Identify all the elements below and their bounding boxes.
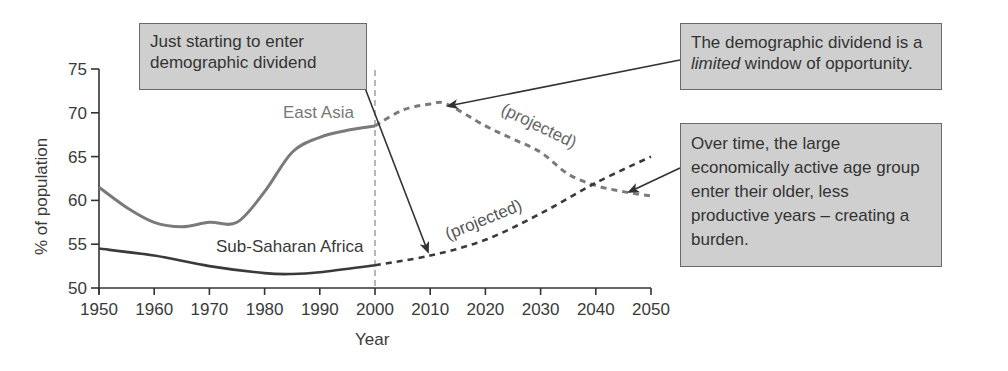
callout-text: window of opportunity.	[740, 54, 913, 73]
callout-limited-window: The demographic dividend is a limited wi…	[680, 23, 942, 90]
x-tick-label: 2020	[466, 300, 504, 319]
x-tick-label: 1970	[190, 300, 228, 319]
ssa-label: Sub-Saharan Africa	[216, 237, 364, 256]
y-tick-label: 75	[68, 60, 87, 79]
x-axis-title: Year	[355, 330, 390, 349]
east-asia-line	[99, 126, 375, 227]
y-tick-label: 50	[68, 279, 87, 298]
x-tick-label: 1950	[80, 300, 118, 319]
callout-text: productive years – creating a	[691, 204, 931, 228]
x-tick-label: 1960	[135, 300, 173, 319]
y-tick-label: 60	[68, 191, 87, 210]
arrow-limited-window	[448, 60, 680, 106]
callout-text: demographic dividend	[150, 52, 356, 73]
y-tick-label: 70	[68, 104, 87, 123]
emphasis-text: limited	[691, 54, 740, 73]
callout-text: Just starting to enter	[150, 31, 356, 52]
x-tick-label: 2040	[577, 300, 615, 319]
x-tick-label: 2010	[411, 300, 449, 319]
callout-text: enter their older, less	[691, 180, 931, 204]
callout-text: burden.	[691, 228, 931, 252]
projected-ea-label: (projected)	[498, 100, 579, 153]
callout-burden: Over time, the large economically active…	[680, 123, 942, 267]
x-tick-label: 2000	[356, 300, 394, 319]
projected-ssa-label: (projected)	[442, 196, 524, 244]
arrow-burden	[629, 168, 680, 192]
callout-dividend-start: Just starting to enter demographic divid…	[139, 23, 367, 90]
callout-text: The demographic dividend is a	[691, 32, 931, 53]
y-tick-label: 55	[68, 235, 87, 254]
x-tick-label: 1980	[246, 300, 284, 319]
x-tick-label: 1990	[301, 300, 339, 319]
east-asia-label: East Asia	[283, 103, 354, 122]
y-axis-title: % of population	[32, 138, 51, 255]
callout-text: economically active age group	[691, 156, 931, 180]
x-tick-label: 2030	[522, 300, 560, 319]
callout-text: limited window of opportunity.	[691, 53, 931, 74]
y-tick-label: 65	[68, 148, 87, 167]
callout-text: Over time, the large	[691, 132, 931, 156]
x-tick-label: 2050	[632, 300, 670, 319]
